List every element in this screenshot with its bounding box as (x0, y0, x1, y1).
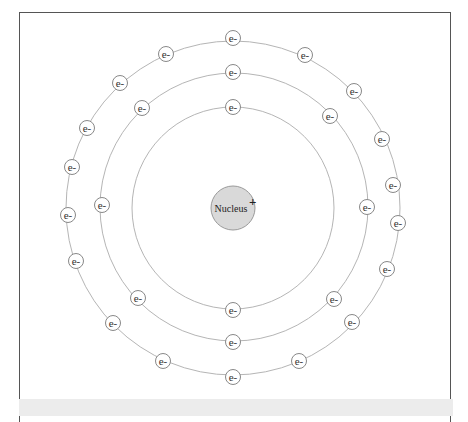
electron: e- (380, 262, 395, 277)
electron: e- (226, 370, 241, 385)
electron: e- (375, 132, 390, 147)
electron: e- (226, 335, 241, 350)
electron-label: e- (229, 101, 238, 113)
electron: e- (226, 65, 241, 80)
electron: e- (292, 354, 307, 369)
electron-label: e- (229, 66, 238, 78)
electron-label: e- (138, 102, 147, 114)
electron-label: e- (350, 85, 359, 97)
electron-label: e- (98, 199, 107, 211)
electron-label: e- (72, 255, 81, 267)
electron-label: e- (348, 316, 357, 328)
electron: e- (135, 101, 150, 116)
electron: e- (106, 316, 121, 331)
nucleus: Nucleus + (211, 186, 256, 230)
electron-label: e- (68, 161, 77, 173)
electron: e- (391, 216, 406, 231)
electron-label: e- (378, 133, 387, 145)
electron-label: e- (229, 32, 238, 44)
electron: e- (345, 315, 360, 330)
electron-label: e- (83, 122, 92, 134)
nucleus-charge: + (249, 194, 256, 209)
electron: e- (386, 178, 401, 193)
electron: e- (327, 292, 342, 307)
electron-label: e- (229, 371, 238, 383)
electron: e- (69, 254, 84, 269)
electron-label: e- (116, 77, 125, 89)
electron-label: e- (330, 293, 339, 305)
electron-label: e- (301, 49, 310, 61)
electron: e- (298, 48, 313, 63)
electron: e- (226, 303, 241, 318)
electron-label: e- (363, 201, 372, 213)
nucleus-label: Nucleus (215, 203, 248, 214)
electron-label: e- (229, 336, 238, 348)
electron: e- (65, 160, 80, 175)
electron-label: e- (326, 110, 335, 122)
electron-label: e- (229, 304, 238, 316)
electron: e- (80, 121, 95, 136)
electron: e- (347, 84, 362, 99)
electron: e- (226, 100, 241, 115)
electron: e- (156, 354, 171, 369)
electron-label: e- (64, 209, 73, 221)
electron-label: e- (109, 317, 118, 329)
electron-label: e- (383, 263, 392, 275)
electron: e- (323, 109, 338, 124)
electron: e- (159, 47, 174, 62)
electron: e- (61, 208, 76, 223)
electron: e- (95, 198, 110, 213)
electron-label: e- (134, 292, 143, 304)
electron-label: e- (394, 217, 403, 229)
electron-label: e- (162, 48, 171, 60)
electron: e- (360, 200, 375, 215)
electron-label: e- (389, 179, 398, 191)
electron-label: e- (159, 355, 168, 367)
electron: e- (131, 291, 146, 306)
electron: e- (226, 31, 241, 46)
electron-label: e- (295, 355, 304, 367)
electron: e- (113, 76, 128, 91)
